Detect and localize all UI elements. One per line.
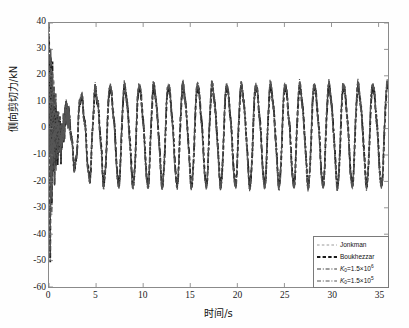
x-tick-20: 20 (222, 291, 252, 301)
y-tick-40: 40 (16, 17, 46, 27)
y-tick--40: -40 (16, 230, 46, 240)
series-k-0-1-5-10-5 (49, 23, 388, 251)
legend-line-sample-3 (316, 276, 338, 286)
y-axis-title-wrapper: 侧向剪切力/kN (3, 29, 21, 169)
x-axis-title: 时间/s (48, 305, 389, 320)
legend-label-2: K0=1.5×106 (340, 266, 374, 273)
x-tick-25: 25 (270, 291, 300, 301)
x-tick-5: 5 (80, 291, 110, 301)
legend-label-1: Boukhezzar (340, 254, 374, 261)
legend-line-sample-2 (316, 264, 338, 274)
x-tick-0: 0 (33, 291, 63, 301)
x-tick-30: 30 (317, 291, 347, 301)
legend-item-2: K0=1.5×106 (316, 263, 386, 275)
series-boukhezzar (49, 36, 388, 262)
legend: JonkmanBoukhezzarK0=1.5×106K0=1.5×105 (313, 236, 389, 288)
legend-item-3: K0=1.5×105 (316, 275, 386, 287)
figure: 403020100-10-20-30-40-50-60 侧向剪切力/kN 051… (0, 0, 409, 328)
legend-label-3: K0=1.5×105 (340, 278, 374, 285)
x-tick-35: 35 (365, 291, 395, 301)
y-axis-title: 侧向剪切力/kN (8, 66, 19, 133)
legend-item-0: Jonkman (316, 239, 386, 251)
legend-line-sample-1 (316, 252, 338, 262)
x-tick-15: 15 (175, 291, 205, 301)
x-tick-10: 10 (128, 291, 158, 301)
legend-label-0: Jonkman (340, 242, 366, 249)
x-axis-tick-labels: 05101520253035 (48, 291, 389, 305)
legend-line-sample-0 (316, 240, 338, 250)
y-tick--30: -30 (16, 203, 46, 213)
y-tick--20: -20 (16, 177, 46, 187)
y-tick--50: -50 (16, 257, 46, 267)
legend-item-1: Boukhezzar (316, 251, 386, 263)
